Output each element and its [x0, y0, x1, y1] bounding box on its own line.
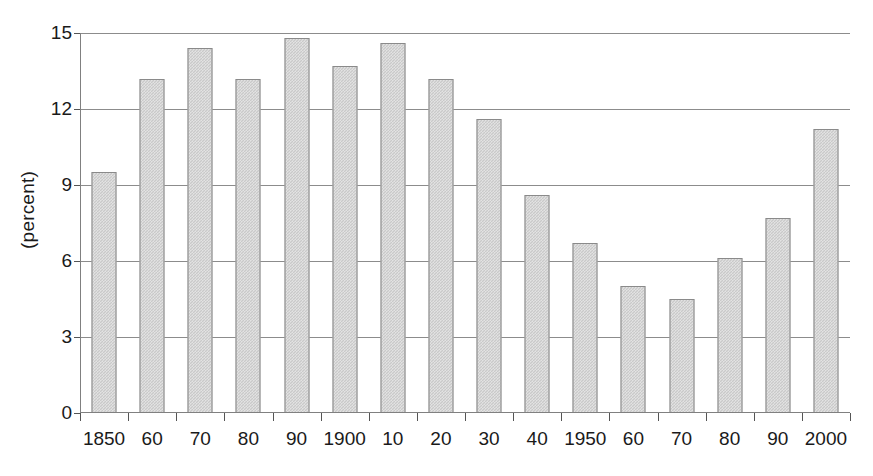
- x-axis-tick-mark: [706, 413, 707, 421]
- y-axis-title-label: (percent): [17, 171, 39, 249]
- x-axis-tick-label: 30: [478, 428, 499, 450]
- x-axis-tick-mark: [754, 413, 755, 421]
- x-axis-tick-mark: [321, 413, 322, 421]
- x-axis-tick-label: 70: [671, 428, 692, 450]
- x-axis-tick-mark: [561, 413, 562, 421]
- x-axis-tick-mark: [80, 413, 81, 421]
- x-axis-tick-label: 60: [142, 428, 163, 450]
- plot-frame: [80, 33, 850, 413]
- x-axis-tick-label: 1900: [324, 428, 366, 450]
- y-axis-tick-label: 15: [46, 22, 72, 44]
- plot-area: [80, 33, 850, 413]
- bar-chart: (percent) 03691215 185060708090190010203…: [0, 0, 873, 476]
- x-axis-tick-mark: [176, 413, 177, 421]
- x-axis-tick-label: 90: [767, 428, 788, 450]
- x-axis-tick-mark: [273, 413, 274, 421]
- x-axis-tick-label: 90: [286, 428, 307, 450]
- x-axis-tick-labels: 1850607080901900102030401950607080902000: [80, 428, 850, 462]
- x-axis-tick-label: 10: [382, 428, 403, 450]
- y-axis-tick-label: 6: [46, 250, 72, 272]
- x-axis-tick-label: 80: [719, 428, 740, 450]
- x-axis-tick-label: 70: [190, 428, 211, 450]
- x-axis-tick-mark: [513, 413, 514, 421]
- y-axis-tick-label: 0: [46, 402, 72, 424]
- y-axis-tick-label: 3: [46, 326, 72, 348]
- x-axis-tick-mark: [128, 413, 129, 421]
- y-axis-tick-labels: 03691215: [44, 0, 72, 476]
- x-axis-tick-label: 20: [430, 428, 451, 450]
- x-axis-tick-label: 1850: [83, 428, 125, 450]
- x-axis-tick-mark: [850, 413, 851, 421]
- y-axis-tick-label: 12: [46, 98, 72, 120]
- x-axis-tick-mark: [658, 413, 659, 421]
- x-axis-tick-label: 80: [238, 428, 259, 450]
- x-axis-tick-label: 60: [623, 428, 644, 450]
- y-axis-tick-label: 9: [46, 174, 72, 196]
- x-axis-tick-mark: [465, 413, 466, 421]
- x-axis-tick-label: 40: [527, 428, 548, 450]
- x-axis-tick-mark: [609, 413, 610, 421]
- x-axis-tick-mark: [369, 413, 370, 421]
- x-axis-tick-mark: [417, 413, 418, 421]
- x-axis-tick-mark: [802, 413, 803, 421]
- x-axis-tick-label: 2000: [805, 428, 847, 450]
- x-axis-tick-label: 1950: [564, 428, 606, 450]
- x-axis-tick-mark: [224, 413, 225, 421]
